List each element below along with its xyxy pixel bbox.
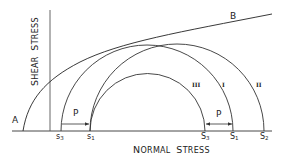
circle-label-III: III	[192, 82, 200, 88]
circle-label-II: II	[256, 82, 262, 88]
circle-label-I: I	[222, 82, 225, 88]
tick-sub: 1	[235, 135, 239, 141]
tick-S3: S3	[201, 133, 210, 142]
point-label-B: B	[230, 12, 236, 21]
tick-s1: s1	[87, 133, 95, 142]
circle-III	[90, 74, 205, 131]
pressure-label-right: P	[216, 110, 221, 119]
label-part: ORMAL	[140, 146, 170, 155]
tick-S1: S1	[230, 133, 239, 142]
mohr-diagram	[0, 0, 283, 161]
tick-sub: 3	[206, 135, 210, 141]
arrowhead-right	[228, 122, 232, 125]
pressure-label-left: P	[73, 109, 78, 118]
label-part: S	[29, 80, 40, 86]
arrowhead-left	[85, 122, 89, 125]
point-label-A: A	[12, 116, 18, 125]
x-axis-label: NORMAL STRESS	[133, 145, 210, 155]
label-part: HEAR	[31, 56, 40, 79]
tick-sub: 3	[60, 135, 64, 141]
label-part: TRESS	[183, 146, 210, 155]
y-axis-label: SHEAR STRESS	[30, 17, 40, 86]
tick-s3: s3	[56, 133, 64, 142]
tick-S2: S2	[260, 133, 269, 142]
circle-I	[61, 45, 233, 131]
tick-sub: 2	[265, 135, 269, 141]
label-part: S	[29, 44, 40, 50]
tick-sub: 1	[91, 135, 95, 141]
circle-II	[90, 44, 264, 131]
arrowhead-right-tail	[206, 122, 210, 125]
label-part: TRESS	[31, 17, 40, 44]
failure-envelope	[23, 14, 272, 131]
